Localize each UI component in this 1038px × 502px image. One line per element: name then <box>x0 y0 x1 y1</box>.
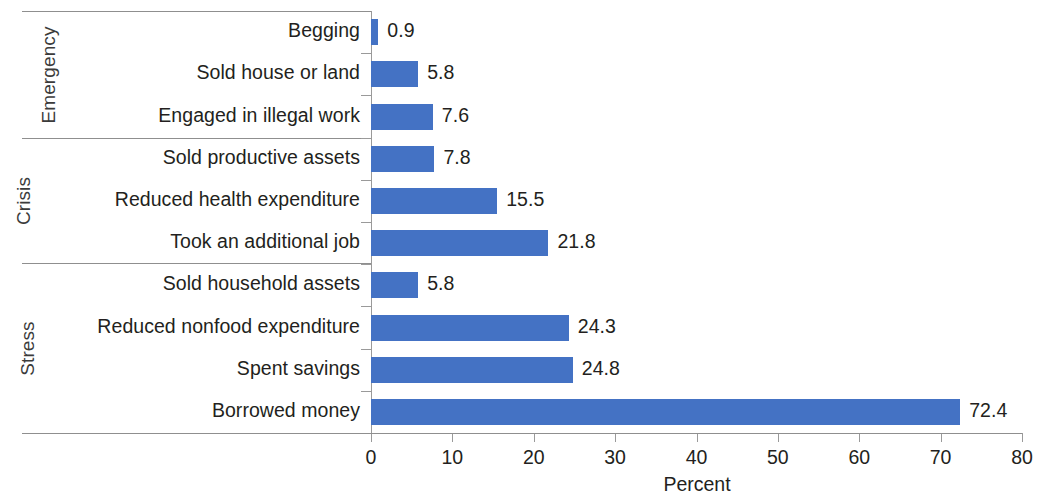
category-axis-tick <box>361 53 371 54</box>
bar-value-label: 5.8 <box>427 272 454 295</box>
group-label-stress-text: Stress <box>0 321 112 375</box>
x-axis-tick-label: 50 <box>767 446 789 469</box>
bar-value-label: 24.3 <box>578 315 616 338</box>
x-axis-tick-label: 10 <box>442 446 464 469</box>
x-axis-line <box>30 433 1022 434</box>
category-label: Sold productive assets <box>163 146 360 169</box>
group-rule-emergency-crisis <box>22 138 371 139</box>
bar-value-label: 7.8 <box>443 146 470 169</box>
category-label: Begging <box>288 19 360 42</box>
group-rule-top <box>22 11 371 12</box>
category-label: Borrowed money <box>212 399 360 422</box>
x-axis-tick-label: 30 <box>604 446 626 469</box>
category-label: Reduced nonfood expenditure <box>97 315 360 338</box>
category-axis-tick <box>361 349 371 350</box>
x-axis-tick-label: 70 <box>930 446 952 469</box>
group-label-stress: Stress <box>0 264 30 433</box>
category-axis-tick <box>361 391 371 392</box>
category-label: Sold household assets <box>163 272 360 295</box>
bar <box>371 61 418 87</box>
x-axis-tick <box>452 433 453 442</box>
x-axis-tick <box>1022 433 1023 442</box>
category-axis-tick <box>361 180 371 181</box>
group-label-emergency-text: Emergency <box>0 27 112 124</box>
x-axis-tick-label: 0 <box>366 446 377 469</box>
category-axis-tick <box>361 222 371 223</box>
x-axis-tick-label: 20 <box>523 446 545 469</box>
category-label: Spent savings <box>237 357 360 380</box>
category-label: Engaged in illegal work <box>158 104 360 127</box>
x-axis-tick <box>371 433 372 442</box>
category-label: Sold house or land <box>196 61 360 84</box>
x-axis-tick-label: 60 <box>848 446 870 469</box>
category-label: Reduced health expenditure <box>115 188 360 211</box>
x-axis-tick <box>534 433 535 442</box>
horizontal-bar-chart: Emergency Crisis Stress Begging0.9Sold h… <box>0 0 1038 502</box>
bar <box>371 272 418 298</box>
x-axis-tick <box>941 433 942 442</box>
category-label: Took an additional job <box>170 230 360 253</box>
bar-value-label: 21.8 <box>557 230 595 253</box>
bar <box>371 357 573 383</box>
category-axis-tick <box>361 138 371 139</box>
x-axis-tick <box>697 433 698 442</box>
bar-value-label: 5.8 <box>427 61 454 84</box>
bar <box>371 188 497 214</box>
bar <box>371 315 569 341</box>
category-axis-tick <box>361 264 371 265</box>
x-axis-tick <box>615 433 616 442</box>
category-axis-tick <box>361 95 371 96</box>
bar <box>371 104 433 130</box>
bar-value-label: 72.4 <box>969 399 1007 422</box>
bar <box>371 19 378 45</box>
group-label-emergency: Emergency <box>0 12 30 138</box>
x-axis-tick-label: 40 <box>686 446 708 469</box>
bar-value-label: 7.6 <box>442 104 469 127</box>
bar-value-label: 15.5 <box>506 188 544 211</box>
group-rule-crisis-stress <box>22 263 371 264</box>
bar <box>371 230 548 256</box>
x-axis-tick <box>778 433 779 442</box>
x-axis-title: Percent <box>663 473 730 496</box>
group-label-crisis: Crisis <box>0 139 30 263</box>
category-axis-tick <box>361 306 371 307</box>
bar <box>371 146 434 172</box>
bar-value-label: 24.8 <box>582 357 620 380</box>
bar <box>371 399 960 425</box>
x-axis-tick-label: 80 <box>1011 446 1033 469</box>
bar-value-label: 0.9 <box>387 19 414 42</box>
group-label-crisis-text: Crisis <box>0 177 86 225</box>
x-axis-tick <box>859 433 860 442</box>
